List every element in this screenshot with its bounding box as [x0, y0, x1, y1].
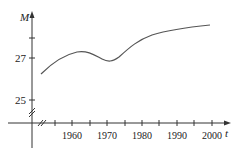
y-axis-label: M [19, 11, 30, 23]
y-axis-arrow-icon [30, 11, 35, 18]
data-line [41, 25, 210, 74]
x-tick-label-1960: 1960 [62, 130, 82, 141]
x-tick-label-2000: 2000 [202, 130, 222, 141]
x-axis-arrow-icon [224, 121, 231, 126]
y-tick-label-25: 25 [15, 94, 27, 106]
y-tick-label-27: 27 [15, 52, 27, 64]
x-axis-label: t [225, 127, 229, 139]
x-tick-label-1980: 1980 [132, 130, 152, 141]
x-tick-label-1970: 1970 [97, 130, 117, 141]
x-tick-label-1990: 1990 [167, 130, 187, 141]
chart: M t 27 25 1960 1970 1980 1990 2000 [0, 0, 239, 153]
